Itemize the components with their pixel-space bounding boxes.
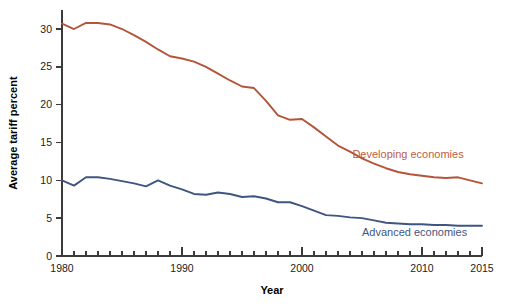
x-tick-label: 2015 (470, 262, 494, 274)
line-chart: 051015202530 19801990200020102015 Develo… (0, 0, 509, 304)
y-tick-label: 5 (46, 212, 52, 224)
series-line-advanced-economies (62, 177, 482, 225)
x-tick-label: 1990 (170, 262, 194, 274)
x-tick-label: 2000 (290, 262, 314, 274)
x-tick-group (62, 247, 482, 256)
x-tick-label-group: 19801990200020102015 (50, 262, 494, 274)
series-label-developing-economies: Developing economies (352, 148, 464, 160)
y-axis-title: Average tariff percent (7, 76, 19, 190)
y-tick-label: 20 (40, 98, 52, 110)
y-tick-label: 10 (40, 174, 52, 186)
x-tick-label: 1980 (50, 262, 74, 274)
y-tick-label: 0 (46, 250, 52, 262)
y-tick-label-group: 051015202530 (40, 23, 52, 262)
axes-group (62, 10, 482, 256)
x-axis-title: Year (260, 284, 284, 296)
y-tick-label: 15 (40, 136, 52, 148)
chart-figure: 051015202530 19801990200020102015 Develo… (0, 0, 509, 304)
y-tick-label: 30 (40, 23, 52, 35)
y-tick-label: 25 (40, 60, 52, 72)
series-group (62, 23, 482, 226)
x-tick-label: 2010 (410, 262, 434, 274)
y-tick-group (56, 29, 62, 256)
series-label-advanced-economies: Advanced economies (362, 226, 468, 238)
